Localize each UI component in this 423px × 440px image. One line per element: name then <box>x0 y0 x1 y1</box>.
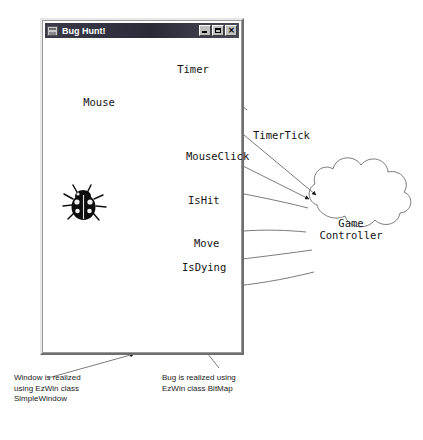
diagram-canvas: Bug Hunt! ✕ <box>0 0 423 440</box>
maximize-button[interactable] <box>212 25 224 36</box>
edge-line-mouse-click-2 <box>243 166 309 199</box>
edge-label-mouse-click: MouseClick <box>186 150 249 162</box>
cloud-label-timer: Timer <box>168 63 218 75</box>
bug-bitmap[interactable] <box>62 183 108 225</box>
annotation-window: Window is realized using EzWin class Sim… <box>14 373 129 405</box>
edge-label-move: Move <box>194 237 219 249</box>
edge-label-is-hit: IsHit <box>188 194 220 206</box>
cloud-label-mouse: Mouse <box>73 96 125 108</box>
edge-label-timer-tick: TimerTick <box>253 129 310 141</box>
edge-line-timer-tick-2 <box>244 135 316 195</box>
window-title: Bug Hunt! <box>62 26 199 36</box>
cloud-label-game-controller: Game Controller <box>312 217 390 241</box>
close-button[interactable]: ✕ <box>225 25 237 36</box>
window-titlebar[interactable]: Bug Hunt! ✕ <box>45 23 239 38</box>
window-app-icon <box>47 26 58 36</box>
window-controls: ✕ <box>199 25 237 36</box>
annotation-bug: Bug is realized using EzWin class BitMap <box>162 373 282 394</box>
edge-label-is-dying: IsDying <box>182 261 226 273</box>
minimize-button[interactable] <box>199 25 211 36</box>
